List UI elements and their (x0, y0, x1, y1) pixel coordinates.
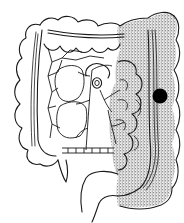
ileocolic-arcades (48, 48, 104, 138)
ascending-colon-inner (37, 30, 56, 156)
sma-branches (76, 65, 112, 150)
appendix (58, 160, 68, 182)
transverse-taenia (48, 30, 124, 38)
aorta-cross-section (92, 78, 101, 88)
rectum-outline (81, 171, 118, 222)
shaded-left-colon-region (109, 13, 177, 207)
transverse-colon-bottom (44, 44, 120, 53)
colon-illustration (0, 0, 184, 223)
lesion-marker-dot (153, 89, 168, 104)
lower-arcade-ladder (62, 148, 114, 153)
middle-colic-arcades (55, 66, 87, 139)
